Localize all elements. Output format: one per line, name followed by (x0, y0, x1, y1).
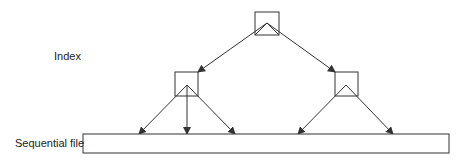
edge-left-to-file-1 (139, 85, 187, 134)
edge-left-to-file-3 (187, 85, 235, 134)
sequential-file-label: Sequential file (15, 137, 84, 149)
edge-right-to-file-2 (346, 85, 393, 134)
edge-root-to-right (267, 23, 335, 72)
index-label: Index (54, 50, 81, 62)
sequential-file-bar (83, 134, 449, 153)
edge-right-to-file-1 (298, 85, 346, 134)
edge-root-to-left (198, 23, 267, 72)
